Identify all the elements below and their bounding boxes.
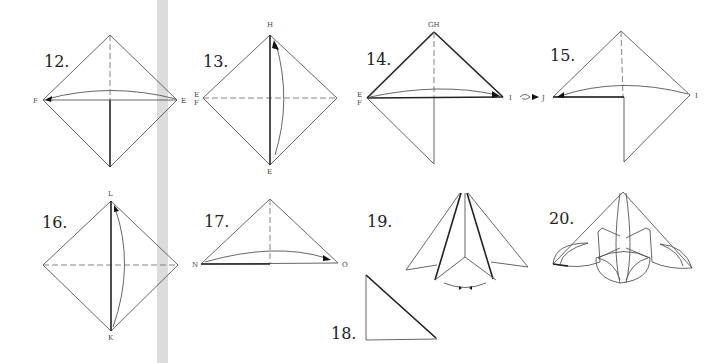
point-label-f: F: [357, 99, 362, 107]
point-label-i: I: [695, 92, 698, 100]
point-label-n: N: [192, 261, 198, 269]
step-number-15: 15.: [550, 46, 575, 65]
diagram-canvas: [0, 0, 728, 363]
point-label-e: E: [267, 168, 272, 176]
point-label-f: F: [33, 97, 38, 105]
point-label-o: O: [342, 261, 348, 269]
step-number-17: 17.: [204, 212, 229, 231]
point-label-k: K: [108, 334, 113, 342]
step-number-14: 14.: [366, 50, 391, 69]
point-label-j: J: [542, 94, 545, 102]
step-number-20: 20.: [549, 209, 574, 228]
step-number-18: 18.: [331, 324, 356, 343]
point-label-i: I: [509, 94, 512, 102]
point-label-h: H: [267, 21, 273, 29]
step-19-diagram: [406, 193, 528, 290]
point-label-l: L: [108, 190, 113, 198]
step-17-diagram: [201, 199, 338, 264]
point-label-f: F: [194, 99, 199, 107]
origami-instructions-page: 12. 13. 14. 15. 16. 17. 18. 19. 20. F E …: [0, 0, 728, 363]
step-number-12: 12.: [44, 52, 69, 71]
step-20-diagram: [553, 192, 692, 283]
point-label-e: E: [181, 97, 186, 105]
step-18-diagram: [366, 275, 437, 340]
step-number-16: 16.: [42, 213, 67, 232]
point-label-e: E: [357, 91, 362, 99]
point-label-e: E: [194, 91, 199, 99]
turn-over-icon: [520, 94, 539, 100]
step-number-19: 19.: [367, 212, 392, 231]
point-label-gh: GH: [428, 21, 440, 29]
step-number-13: 13.: [203, 52, 228, 71]
